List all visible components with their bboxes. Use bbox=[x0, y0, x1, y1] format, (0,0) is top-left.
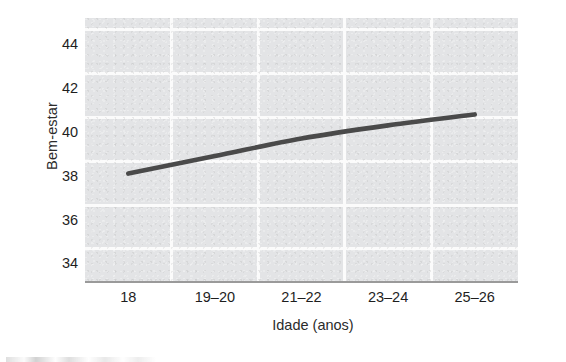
cropped-caption-edge bbox=[6, 357, 156, 362]
x-axis-title: Idade (anos) bbox=[0, 317, 566, 333]
x-tick-label-0: 18 bbox=[83, 289, 173, 305]
y-tick-label-38: 38 bbox=[62, 168, 88, 184]
y-axis-title: Bem-estar bbox=[44, 56, 60, 216]
y-tick-label-42: 42 bbox=[62, 80, 88, 96]
y-tick-label-36: 36 bbox=[62, 212, 88, 228]
x-tick-label-3: 23–24 bbox=[343, 289, 433, 305]
series-path bbox=[128, 114, 474, 173]
x-axis-line bbox=[85, 281, 518, 283]
x-tick-label-4: 25–26 bbox=[430, 289, 520, 305]
y-tick-label-34: 34 bbox=[62, 255, 88, 271]
y-tick-label-40: 40 bbox=[62, 124, 88, 140]
series-line-bem-estar bbox=[85, 18, 518, 281]
chart-figure: Bem-estar 343638404244 1819–2021–2223–24… bbox=[0, 0, 566, 362]
x-tick-label-2: 21–22 bbox=[257, 289, 347, 305]
plot-area bbox=[85, 18, 518, 281]
y-tick-label-44: 44 bbox=[62, 36, 88, 52]
x-tick-label-1: 19–20 bbox=[170, 289, 260, 305]
